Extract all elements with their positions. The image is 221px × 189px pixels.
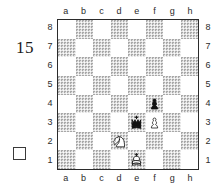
rank-label-right-2: 2 [203, 136, 213, 146]
rank-label-right-1: 1 [203, 155, 213, 165]
chess-diagram: 15 abcdefgh abcdefgh 87654321 87654321 [0, 0, 221, 189]
rank-label-right-4: 4 [203, 98, 213, 108]
rank-label-right-6: 6 [203, 60, 213, 70]
rank-label-right-7: 7 [203, 41, 213, 51]
rank-labels-right: 87654321 [0, 0, 221, 189]
rank-label-right-5: 5 [203, 79, 213, 89]
rank-label-right-8: 8 [203, 22, 213, 32]
rank-label-right-3: 3 [203, 117, 213, 127]
